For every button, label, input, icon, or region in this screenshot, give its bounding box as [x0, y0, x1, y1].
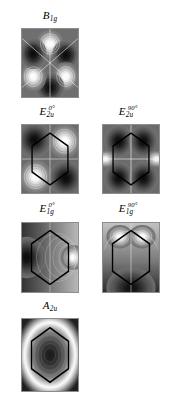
- panel-label-sup-e2u-0: 0°: [49, 104, 55, 111]
- panel-label-sub-e2u-90: 2u: [126, 111, 134, 119]
- panel-cell-e1g-0: E1g0°: [21, 203, 79, 293]
- panel-label-sub-e2u-0: 2u: [46, 111, 54, 119]
- plot-a2u: [21, 318, 79, 392]
- panel-label-a2u: A2u: [21, 300, 79, 311]
- panel-label-base-b1g: B: [43, 9, 50, 21]
- panel-label-sub-b1g: 1g: [50, 15, 58, 23]
- panel-label-sup-e1g-90: 90°: [128, 201, 138, 208]
- panel-label-b1g: B1g: [21, 10, 79, 21]
- panel-label-sup-e1g-0: 0°: [49, 201, 55, 208]
- panel-cell-e2u-90: E2u90°: [102, 106, 160, 194]
- symmetry-mode-figure: B1g: [0, 0, 178, 411]
- panel-label-e1g-90: E1g90°: [102, 203, 160, 214]
- panel-cell-a2u: A2u: [21, 300, 79, 394]
- panel-label-sub-a2u: 2u: [50, 305, 58, 313]
- panel-label-base-a2u: A: [43, 299, 50, 311]
- plot-e2u-90: [102, 124, 160, 194]
- plot-b1g: [21, 28, 79, 98]
- panel-label-base-e1g-90: E: [119, 202, 126, 214]
- panel-label-e2u-90: E2u90°: [102, 106, 160, 117]
- panel-label-e1g-0: E1g0°: [21, 203, 79, 214]
- plot-e1g-90: [102, 222, 160, 293]
- plot-e2u-0: [21, 124, 79, 194]
- panel-label-e2u-0: E2u0°: [21, 106, 79, 117]
- panel-cell-e2u-0: E2u0°: [21, 106, 79, 194]
- panel-label-base-e2u-90: E: [119, 105, 126, 117]
- panel-label-sup-e2u-90: 90°: [128, 104, 138, 111]
- panel-label-sub-e1g-90: 1g: [126, 208, 134, 216]
- panel-label-sub-e1g-0: 1g: [46, 208, 54, 216]
- panel-cell-b1g: B1g: [21, 10, 79, 98]
- plot-e1g-0: [21, 222, 79, 293]
- panel-cell-e1g-90: E1g90°: [102, 203, 160, 293]
